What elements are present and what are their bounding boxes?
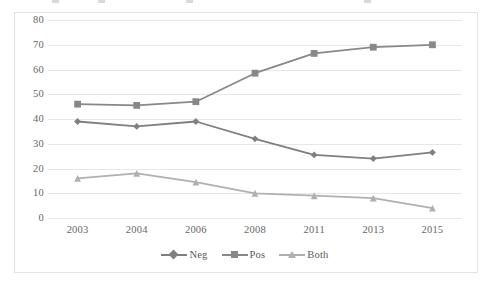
y-axis-tick-label: 10 — [18, 188, 44, 199]
gridline — [48, 218, 462, 219]
y-axis-tick-label: 40 — [18, 114, 44, 125]
y-axis-tick-label: 50 — [18, 89, 44, 100]
data-point-marker — [74, 101, 81, 108]
y-axis-tick-label: 0 — [18, 213, 44, 224]
x-axis-tick-label: 2003 — [67, 224, 89, 235]
legend-label: Neg — [189, 249, 207, 261]
data-point-marker — [192, 118, 199, 125]
legend-item-both[interactable]: Both — [279, 248, 328, 261]
x-axis-tick-label: 2013 — [362, 224, 384, 235]
legend-square-icon — [222, 250, 248, 260]
legend-triangle-icon — [279, 250, 305, 260]
data-point-marker — [74, 118, 81, 125]
series-lines — [48, 20, 462, 218]
data-point-marker — [133, 102, 140, 109]
y-axis-tick-label: 70 — [18, 40, 44, 51]
data-point-marker — [252, 135, 259, 142]
legend-label: Both — [307, 249, 328, 261]
chart-figure: 01020304050607080 2003200420062008201120… — [0, 0, 490, 281]
series-pos — [74, 41, 436, 108]
clipped-top-artifacts — [0, 0, 490, 6]
x-axis-tick-label: 2006 — [185, 224, 207, 235]
data-point-marker — [370, 155, 377, 162]
series-both — [74, 170, 436, 211]
legend-label: Pos — [250, 249, 266, 261]
x-axis-tick-label: 2008 — [244, 224, 266, 235]
legend-item-pos[interactable]: Pos — [222, 248, 266, 261]
series-neg — [74, 118, 436, 162]
legend-item-neg[interactable]: Neg — [161, 248, 207, 261]
data-point-marker — [311, 151, 318, 158]
data-point-marker — [311, 50, 318, 57]
chart-legend: NegPosBoth — [0, 248, 490, 261]
y-axis-tick-label: 20 — [18, 164, 44, 175]
y-axis-tick-label: 80 — [18, 15, 44, 26]
data-point-marker — [192, 98, 199, 105]
data-point-marker — [429, 41, 436, 48]
y-axis-tick-label: 30 — [18, 139, 44, 150]
x-axis-tick-label: 2011 — [303, 224, 324, 235]
data-point-marker — [429, 149, 436, 156]
plot-area — [48, 20, 462, 218]
data-point-marker — [252, 70, 259, 77]
x-axis-tick-label: 2004 — [126, 224, 148, 235]
x-axis-tick-labels: 2003200420062008201120132015 — [48, 224, 462, 238]
x-axis-tick-label: 2015 — [422, 224, 444, 235]
legend-diamond-icon — [161, 250, 187, 260]
data-point-marker — [133, 123, 140, 130]
data-point-marker — [370, 44, 377, 51]
y-axis-tick-labels: 01020304050607080 — [14, 20, 44, 218]
y-axis-tick-label: 60 — [18, 65, 44, 76]
